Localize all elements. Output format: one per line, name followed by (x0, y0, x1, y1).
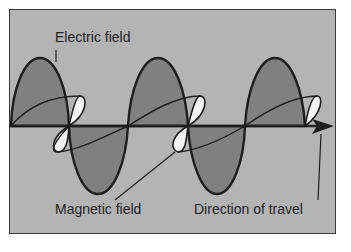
electric-field-label: Electric field (55, 30, 130, 44)
direction-label-leader (318, 134, 321, 200)
direction-of-travel-label: Direction of travel (194, 202, 303, 216)
magnetic-field-label: Magnetic field (55, 202, 141, 216)
